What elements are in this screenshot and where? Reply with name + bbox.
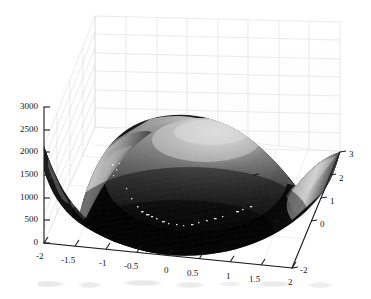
z-tick-label: 500 bbox=[4, 215, 38, 224]
z-tick-label: 1500 bbox=[4, 170, 38, 179]
y-tick-label: 0 bbox=[320, 220, 325, 229]
z-tick-label: 0 bbox=[4, 238, 38, 247]
y-tick-label: 2 bbox=[339, 174, 344, 183]
y-tick-label: -2 bbox=[300, 266, 308, 275]
x-tick-label: 2 bbox=[288, 278, 293, 287]
x-tick-label: -0.5 bbox=[124, 262, 138, 271]
x-tick-label: 0 bbox=[164, 266, 169, 275]
z-tick-label: 2500 bbox=[4, 125, 38, 134]
x-tick-label: -1 bbox=[99, 259, 107, 268]
x-tick-label: -2 bbox=[36, 252, 44, 261]
z-tick-label: 3000 bbox=[4, 102, 38, 111]
z-tick-label: 1000 bbox=[4, 193, 38, 202]
y-tick-label: 3 bbox=[349, 150, 354, 159]
x-tick-label: 1 bbox=[226, 272, 231, 281]
x-tick-label: -1.5 bbox=[61, 256, 75, 265]
surface-plot-figure bbox=[0, 0, 371, 299]
x-tick-label: 1.5 bbox=[249, 275, 260, 284]
z-tick-label: 2000 bbox=[4, 147, 38, 156]
y-tick-label: 1 bbox=[330, 197, 335, 206]
x-tick-label: 0.5 bbox=[187, 269, 198, 278]
